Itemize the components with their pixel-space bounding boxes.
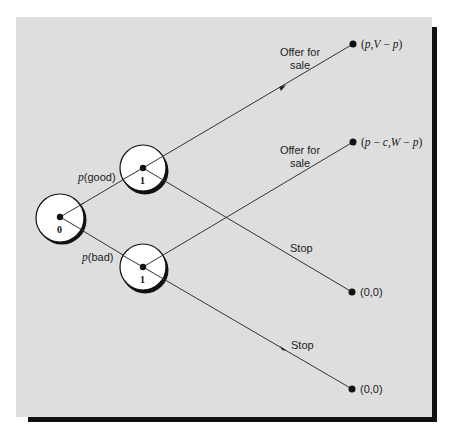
terminal-dot-4 (349, 386, 356, 393)
node0-label: 0 (57, 224, 62, 235)
node1-bad-label: 1 (140, 274, 145, 285)
offer-for-sale-label-good: Offer for sale (278, 46, 322, 71)
offer-for-sale-label-bad: Offer for sale (278, 144, 322, 169)
terminal-dot-3 (349, 289, 356, 296)
stop-label-good: Stop (290, 242, 313, 254)
payoff-1: (p,V − p) (361, 38, 402, 50)
node1-good-label: 1 (140, 175, 145, 186)
stop-label-bad: Stop (291, 339, 314, 351)
node1-bad-dot (140, 264, 146, 270)
p-good-label: p(good) (78, 171, 116, 183)
game-tree-svg (0, 0, 455, 435)
edge-good-stop (143, 168, 352, 292)
edge-bad-stop (143, 267, 352, 389)
payoff-2: (p − c,W − p) (361, 136, 422, 148)
node0-dot (57, 214, 63, 220)
p-bad-label: p(bad) (82, 251, 113, 263)
terminal-dot-1 (350, 41, 357, 48)
payoff-4: (0,0) (360, 383, 383, 395)
payoff-3: (0,0) (360, 286, 383, 298)
node1-good-dot (140, 165, 146, 171)
terminal-dot-2 (350, 139, 357, 146)
